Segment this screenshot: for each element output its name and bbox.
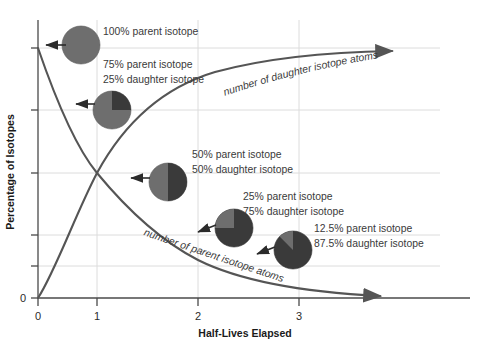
callout-12-5-line1: 12.5% parent isotope bbox=[314, 223, 412, 234]
x-tick-label-0: 0 bbox=[35, 310, 41, 322]
callout-75-line1: 75% parent isotope bbox=[103, 59, 193, 70]
y-axis-title: Percentage of Isotopes bbox=[4, 114, 16, 230]
x-tick-label-2: 2 bbox=[195, 310, 201, 322]
callout-25-line1: 25% parent isotope bbox=[243, 191, 333, 202]
decay-chart-svg: 0 0 1 2 3 Half-Lives Elapsed Percentage … bbox=[0, 0, 478, 345]
x-tick-label-1: 1 bbox=[94, 310, 100, 322]
x-axis-title: Half-Lives Elapsed bbox=[198, 327, 291, 339]
x-axis-ticks bbox=[38, 298, 299, 306]
radioactive-decay-figure: 0 0 1 2 3 Half-Lives Elapsed Percentage … bbox=[0, 0, 478, 345]
callout-75-line2: 25% daughter isotope bbox=[103, 74, 204, 85]
pointer-arrow-12-5 bbox=[257, 247, 275, 254]
pointer-arrow-25 bbox=[198, 225, 216, 232]
y-tick-label-0: 0 bbox=[20, 292, 26, 304]
pie-marker-12-5-87-5 bbox=[274, 231, 312, 269]
pie-marker-100-0 bbox=[62, 26, 100, 64]
y-axis-ticks bbox=[31, 48, 38, 298]
callout-12-5-line2: 87.5% daughter isotope bbox=[314, 238, 424, 249]
callout-100-line1: 100% parent isotope bbox=[103, 26, 199, 37]
callout-25-line2: 75% daughter isotope bbox=[243, 206, 344, 217]
callout-50-line1: 50% parent isotope bbox=[192, 149, 282, 160]
pie-marker-75-25 bbox=[93, 91, 131, 129]
x-tick-label-3: 3 bbox=[296, 310, 302, 322]
pie-marker-50-50 bbox=[149, 163, 187, 201]
callout-50-line2: 50% daughter isotope bbox=[192, 164, 293, 175]
